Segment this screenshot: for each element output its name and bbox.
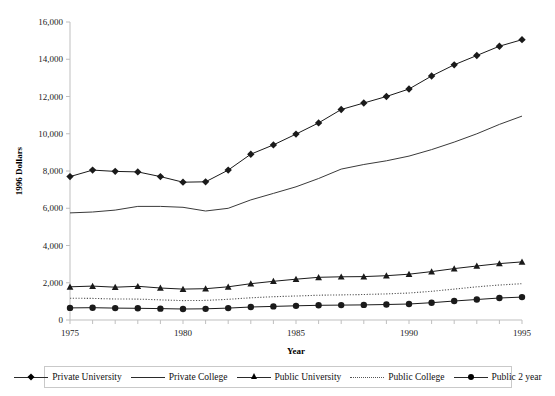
- series-marker: [157, 173, 164, 180]
- series-marker: [361, 302, 367, 308]
- series-marker: [112, 168, 119, 175]
- series-marker: [360, 99, 367, 106]
- legend-swatch-triangle-icon: [237, 372, 271, 382]
- y-axis-tick-label: 12,000: [38, 92, 63, 102]
- series-marker: [496, 295, 502, 301]
- legend-label: Public College: [388, 372, 444, 382]
- series-marker: [67, 305, 73, 311]
- series-marker: [315, 119, 322, 126]
- series-marker: [474, 296, 480, 302]
- series-marker: [473, 52, 480, 59]
- legend-label: Public University: [275, 372, 342, 382]
- x-axis-tick-label: 1975: [61, 328, 80, 338]
- series-marker: [89, 166, 96, 173]
- chart-container: 02,0004,0006,0008,00010,00012,00014,0001…: [0, 0, 555, 396]
- x-axis-tick-label: 1995: [513, 328, 532, 338]
- legend-label: Private University: [52, 372, 121, 382]
- series-line-0: [70, 40, 522, 183]
- series-marker: [338, 302, 344, 308]
- y-axis-tick-label: 16,000: [38, 17, 63, 27]
- series-marker: [134, 168, 141, 175]
- y-axis-tick-label: 10,000: [38, 129, 63, 139]
- y-axis-tick-label: 8,000: [43, 166, 64, 176]
- y-axis-tick-label: 4,000: [43, 241, 64, 251]
- x-axis-tick-label: 1990: [400, 328, 419, 338]
- series-marker: [66, 173, 73, 180]
- legend-swatch-circle-icon: [454, 372, 488, 382]
- series-marker: [225, 166, 232, 173]
- legend-item-2[interactable]: Public University: [237, 372, 342, 382]
- y-axis-tick-label: 6,000: [43, 203, 64, 213]
- y-axis-tick-label: 14,000: [38, 54, 63, 64]
- legend-item-3[interactable]: Public College: [350, 372, 444, 382]
- series-marker: [112, 305, 118, 311]
- legend-item-4[interactable]: Public 2 year: [454, 372, 542, 382]
- chart-legend: Private UniversityPrivate CollegePublic …: [44, 366, 512, 388]
- x-axis-tick-label: 1980: [174, 328, 193, 338]
- y-axis-title: 1996 Dollars: [14, 146, 24, 195]
- legend-swatch-none-icon: [350, 372, 384, 382]
- legend-swatch-none-icon: [131, 372, 165, 382]
- series-marker: [270, 141, 277, 148]
- series-marker: [383, 301, 389, 307]
- x-axis-tick-label: 1985: [287, 328, 306, 338]
- series-marker: [428, 72, 435, 79]
- series-marker: [292, 130, 299, 137]
- series-marker: [293, 303, 299, 309]
- legend-label: Private College: [169, 372, 228, 382]
- series-marker: [247, 151, 254, 158]
- series-marker: [406, 301, 412, 307]
- series-marker: [315, 302, 321, 308]
- series-marker: [89, 305, 95, 311]
- y-axis-tick-label: 0: [59, 315, 64, 325]
- series-marker: [405, 85, 412, 92]
- x-axis-title: Year: [287, 346, 305, 356]
- series-marker: [383, 93, 390, 100]
- line-chart-plot: 02,0004,0006,0008,00010,00012,00014,0001…: [0, 0, 555, 396]
- series-marker: [451, 298, 457, 304]
- series-marker: [202, 306, 208, 312]
- series-marker: [496, 43, 503, 50]
- series-marker: [248, 304, 254, 310]
- legend-item-0[interactable]: Private University: [14, 372, 121, 382]
- series-marker: [338, 106, 345, 113]
- series-marker: [519, 294, 525, 300]
- series-marker: [225, 305, 231, 311]
- series-marker: [270, 303, 276, 309]
- series-marker: [180, 306, 186, 312]
- series-marker: [135, 305, 141, 311]
- y-axis-tick-label: 2,000: [43, 278, 64, 288]
- legend-swatch-diamond-icon: [14, 372, 48, 382]
- legend-label: Public 2 year: [492, 372, 542, 382]
- series-marker: [157, 305, 163, 311]
- series-marker: [451, 61, 458, 68]
- series-marker: [428, 299, 434, 305]
- series-marker: [518, 36, 525, 43]
- legend-item-1[interactable]: Private College: [131, 372, 228, 382]
- series-marker: [179, 178, 186, 185]
- series-marker: [202, 178, 209, 185]
